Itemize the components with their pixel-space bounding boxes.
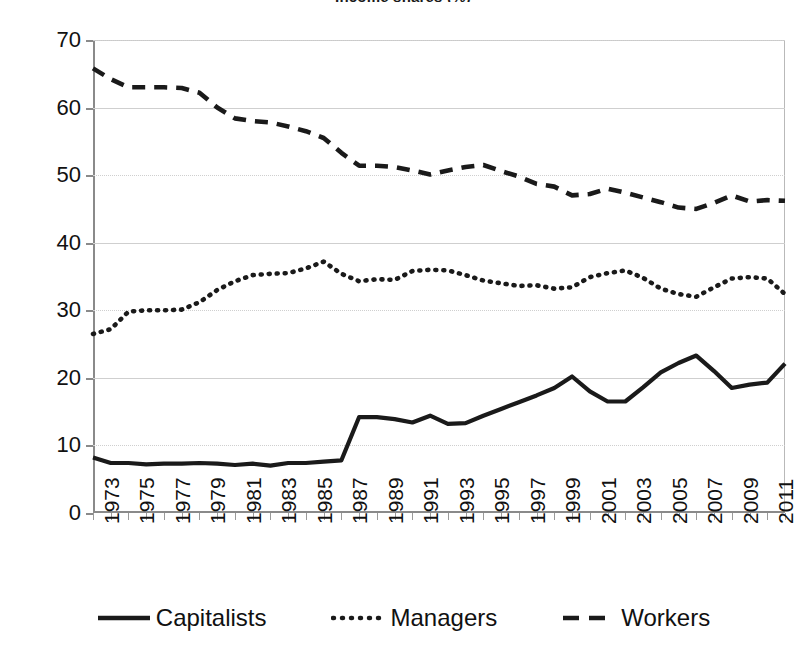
x-axis-tick-label: 1983 (278, 477, 299, 524)
x-axis-tick-label: 1989 (385, 477, 406, 524)
legend-item-capitalists[interactable]: Capitalists (96, 606, 267, 630)
x-axis-tick-mark (128, 513, 129, 520)
x-axis-tick-label: 2011 (775, 479, 796, 524)
x-axis-tick-mark (341, 513, 342, 520)
legend-item-managers[interactable]: Managers (331, 606, 498, 630)
y-axis-tick-mark (86, 310, 93, 312)
y-axis-tick-mark (86, 40, 93, 42)
solid-line-swatch (96, 611, 152, 625)
y-axis-tick-mark (86, 445, 93, 447)
x-axis-tick-mark (199, 513, 200, 520)
legend-label: Capitalists (156, 606, 267, 630)
series-line-workers (93, 68, 785, 209)
y-axis-tick-mark (86, 175, 93, 177)
x-axis-tick-mark (235, 513, 236, 520)
x-axis-tick-mark (448, 513, 449, 520)
x-axis-tick-label: 1991 (420, 477, 441, 524)
x-axis-tick-label: 1973 (101, 477, 122, 524)
y-axis-tick-label: 10 (21, 434, 81, 456)
x-axis-tick-label: 2005 (669, 477, 690, 524)
legend-label: Managers (391, 606, 498, 630)
x-axis-tick-mark (306, 513, 307, 520)
x-axis-tick-mark (93, 513, 94, 520)
y-axis-tick-label: 30 (21, 299, 81, 321)
y-axis-tick-mark (86, 378, 93, 380)
y-axis-tick-mark (86, 108, 93, 110)
y-axis-tick-label: 50 (21, 164, 81, 186)
x-axis-tick-mark (377, 513, 378, 520)
x-axis-tick-label: 1997 (527, 477, 548, 524)
y-axis-tick-label: 40 (21, 232, 81, 254)
x-axis-tick-label: 1977 (172, 477, 193, 524)
y-axis-tick-label: 60 (21, 97, 81, 119)
x-axis-tick-label: 1999 (562, 477, 583, 524)
y-axis-tick-mark (86, 513, 93, 515)
legend-label: Workers (621, 606, 710, 630)
dashed-line-swatch (561, 611, 617, 625)
x-axis-tick-mark (590, 513, 591, 520)
x-axis-tick-label: 1981 (243, 477, 264, 524)
x-axis-tick-label: 1975 (136, 477, 157, 524)
x-axis-tick-label: 1985 (314, 477, 335, 524)
series-layer (93, 40, 785, 513)
x-axis-tick-label: 2007 (704, 477, 725, 524)
chart-legend: CapitalistsManagersWorkers (0, 606, 806, 630)
x-axis-tick-label: 2001 (598, 477, 619, 524)
plot-area (93, 40, 785, 513)
x-axis-tick-label: 1979 (207, 477, 228, 524)
chart-title: Income shares (%) (0, 0, 806, 2)
x-axis-tick-label: 1995 (491, 477, 512, 524)
y-axis-tick-label: 70 (21, 29, 81, 51)
x-axis-tick-mark (519, 513, 520, 520)
y-axis-tick-label: 20 (21, 367, 81, 389)
x-axis-tick-mark (625, 513, 626, 520)
x-axis-tick-mark (696, 513, 697, 520)
series-line-capitalists (93, 356, 785, 466)
x-axis-tick-label: 2003 (633, 477, 654, 524)
x-axis-tick-mark (767, 513, 768, 520)
y-axis-tick-mark (86, 243, 93, 245)
x-axis-tick-mark (412, 513, 413, 520)
legend-item-workers[interactable]: Workers (561, 606, 710, 630)
x-axis-tick-label: 1993 (456, 477, 477, 524)
x-axis-tick-mark (270, 513, 271, 520)
y-axis-tick-label: 0 (21, 502, 81, 524)
x-axis-tick-label: 1987 (349, 477, 370, 524)
dotted-line-swatch (331, 611, 387, 625)
series-line-managers (93, 262, 785, 334)
x-axis-tick-mark (661, 513, 662, 520)
x-axis-tick-mark (483, 513, 484, 520)
x-axis-tick-label: 2009 (740, 477, 761, 524)
x-axis-tick-mark (164, 513, 165, 520)
x-axis-tick-mark (554, 513, 555, 520)
income-share-line-chart: Income shares (%) Income share (%) 01020… (0, 0, 806, 663)
x-axis-tick-mark (732, 513, 733, 520)
